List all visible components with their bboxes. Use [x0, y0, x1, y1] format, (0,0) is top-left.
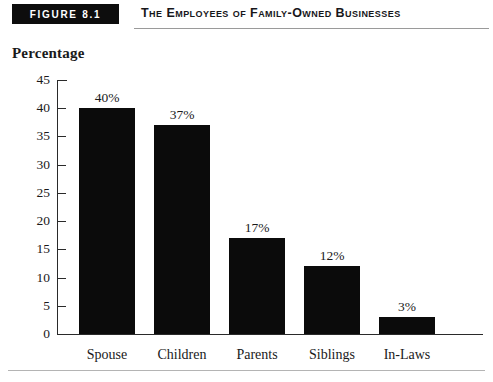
bar-value-label: 40% [67, 91, 147, 105]
y-tick-label: 15 [24, 243, 50, 257]
y-tick-label: 5 [24, 299, 50, 313]
y-tick-label: 0 [24, 327, 50, 341]
x-axis-line [57, 334, 483, 335]
bar [229, 238, 285, 334]
y-tick-label: 40 [24, 101, 50, 115]
bar [79, 108, 135, 334]
bar-chart-plot: 05101520253035404540%Spouse37%Children17… [0, 0, 493, 382]
bar [379, 317, 435, 334]
y-tick-label: 45 [24, 73, 50, 87]
y-tick-mark [58, 249, 66, 250]
bar-value-label: 37% [142, 108, 222, 122]
y-tick-label: 10 [24, 271, 50, 285]
x-category-label: Parents [215, 348, 299, 362]
y-tick-label: 20 [24, 214, 50, 228]
y-tick-label: 30 [24, 158, 50, 172]
y-tick-mark [58, 306, 66, 307]
bar-value-label: 12% [292, 249, 372, 263]
y-tick-mark [58, 136, 66, 137]
x-category-label: In-Laws [365, 348, 449, 362]
footer-divider [8, 370, 485, 371]
x-category-label: Children [140, 348, 224, 362]
bar [154, 125, 210, 334]
y-tick-mark [58, 221, 66, 222]
x-category-label: Spouse [65, 348, 149, 362]
bar [304, 266, 360, 334]
bar-value-label: 17% [217, 221, 297, 235]
y-axis-line [57, 80, 58, 334]
y-tick-label: 25 [24, 186, 50, 200]
y-tick-mark [58, 80, 67, 81]
y-tick-label: 35 [24, 130, 50, 144]
y-tick-mark [58, 278, 66, 279]
y-tick-mark [58, 193, 66, 194]
y-tick-mark [58, 108, 66, 109]
y-tick-mark [58, 165, 66, 166]
bar-value-label: 3% [367, 300, 447, 314]
x-category-label: Siblings [290, 348, 374, 362]
